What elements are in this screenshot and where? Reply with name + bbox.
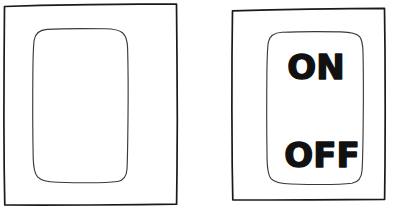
switch-figure-canvas: ON OFF: [0, 0, 405, 215]
switch-label-on: ON: [287, 47, 344, 87]
switch-label-off: OFF: [284, 135, 359, 175]
right-switch-panel: ON OFF: [232, 8, 385, 200]
left-rocker-outline: [33, 29, 128, 183]
left-switch-panel: [4, 4, 177, 205]
